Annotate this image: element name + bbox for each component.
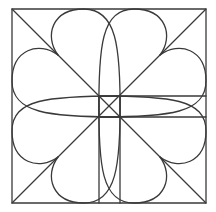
petal-bottom-right	[99, 96, 167, 203]
petal-pattern-figure	[0, 0, 216, 212]
petal-bottom-left	[51, 96, 120, 203]
petal-right-top	[99, 48, 206, 117]
petal-right-bottom	[99, 96, 206, 164]
